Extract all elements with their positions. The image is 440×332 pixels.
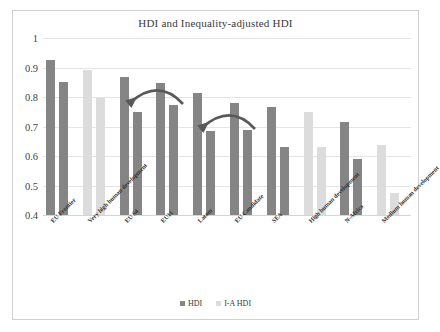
chart-legend: HDII-A HDI [13,299,418,308]
bar-hdi [340,122,349,215]
bar-ia-hdi [206,131,215,215]
chart-container: HDI and Inequality-adjusted HDI 10.90.80… [12,10,419,320]
bar-group [153,38,190,215]
bar-ia-hdi [280,147,289,215]
y-axis-tick-label: 0.4 [25,210,38,221]
bar-hdi [267,107,276,215]
bar-hdi [156,83,165,215]
bar-group [227,38,264,215]
bar-hdi [230,103,239,215]
y-axis-tick-label: 0.7 [25,121,38,132]
y-axis-tick-label: 1 [33,33,38,44]
y-axis-tick-label: 0.6 [25,151,38,162]
bar-group [190,38,227,215]
bar-group [264,38,301,215]
bar-ia-hdi [169,105,178,215]
bar-group [374,38,411,215]
legend-label: I-A HDI [224,299,251,308]
bar-hdi [377,145,386,215]
y-axis-tick-label: 0.5 [25,180,38,191]
bar-hdi [46,60,55,215]
bar-ia-hdi [96,98,105,215]
legend-item: I-A HDI [216,299,251,308]
bar-group [80,38,117,215]
legend-swatch-icon [216,301,221,306]
legend-swatch-icon [180,301,185,306]
bar-hdi [83,70,92,215]
bar-hdi [193,93,202,215]
bar-hdi [120,77,129,215]
legend-item: HDI [180,299,202,308]
bar-hdi [304,112,313,215]
chart-title: HDI and Inequality-adjusted HDI [13,17,418,29]
y-axis-tick-label: 0.8 [25,92,38,103]
y-axis-tick-label: 0.9 [25,62,38,73]
bar-group [43,38,80,215]
bar-group [301,38,338,215]
bar-ia-hdi [59,82,68,215]
plot-area: 10.90.80.70.60.50.4 [43,38,411,215]
legend-label: HDI [188,299,202,308]
